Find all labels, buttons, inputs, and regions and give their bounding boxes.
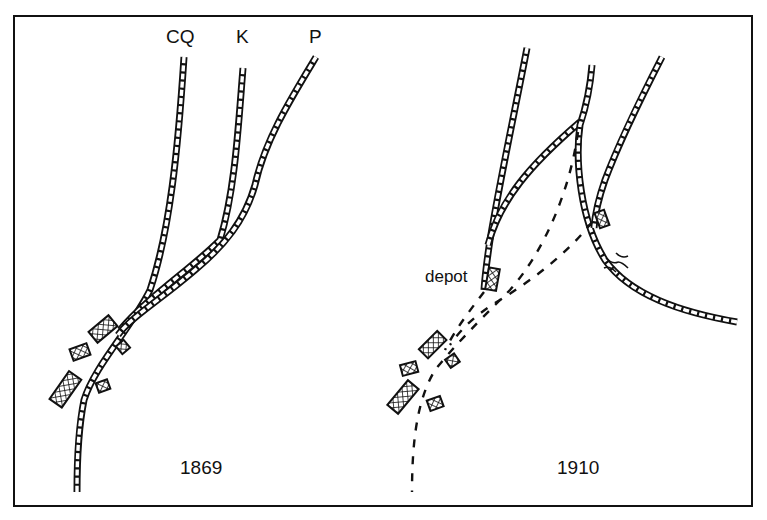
station-building-1869 <box>50 371 82 407</box>
station-building-1910 <box>419 331 447 359</box>
station-building-1910 <box>400 361 418 376</box>
depot-building <box>485 267 500 291</box>
station-building-1910 <box>427 396 444 411</box>
line-label-p: P <box>309 26 322 48</box>
abandoned-track <box>412 132 578 492</box>
railway-diagram: .rail-out { fill: none; stroke: #111; st… <box>0 0 767 520</box>
line-label-k: K <box>236 26 249 48</box>
year-label-1910: 1910 <box>557 457 599 479</box>
track-p-1910 <box>594 57 662 228</box>
station-building-1910 <box>387 380 418 414</box>
line-label-cq: CQ <box>166 26 195 48</box>
abandoned-track <box>445 292 484 350</box>
abandoned-track <box>450 222 592 345</box>
panel-1869 <box>50 57 316 492</box>
depot-label: depot <box>425 267 468 287</box>
station-building-1869 <box>96 379 111 393</box>
year-label-1869: 1869 <box>180 457 222 479</box>
station-building-1910 <box>445 353 460 368</box>
track-north-1910 <box>484 48 527 290</box>
station-building-1869 <box>69 343 90 360</box>
station-building-1869 <box>89 315 118 342</box>
track-cq-1869 <box>77 57 184 492</box>
